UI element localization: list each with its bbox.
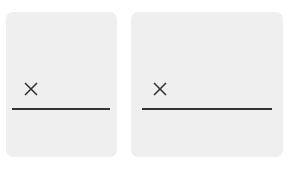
text-field-right[interactable] xyxy=(131,12,283,157)
close-icon[interactable] xyxy=(24,82,38,96)
input-card-right xyxy=(131,12,283,157)
input-underline xyxy=(12,108,110,110)
text-field-left[interactable] xyxy=(6,12,117,157)
input-card-left xyxy=(6,12,117,157)
input-underline xyxy=(142,108,272,110)
close-icon[interactable] xyxy=(153,82,167,96)
